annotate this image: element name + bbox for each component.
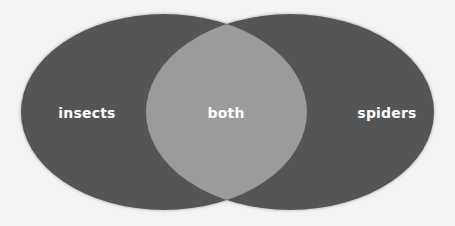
spiders-label: spiders [357, 105, 416, 121]
venn-diagram: insects both spiders [0, 0, 455, 226]
both-label: both [207, 105, 244, 121]
insects-label: insects [58, 105, 115, 121]
